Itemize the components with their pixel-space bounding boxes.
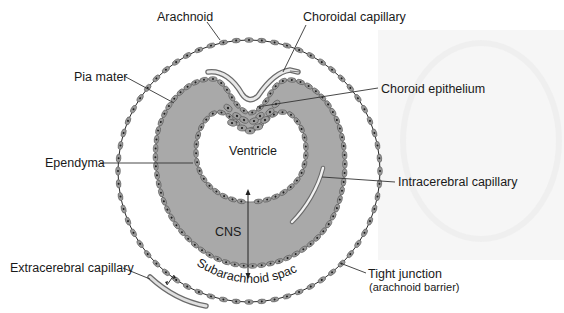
label-choroidal-capillary: Choroidal capillary — [303, 10, 407, 24]
label-intracerebral-capillary: Intracerebral capillary — [398, 175, 518, 189]
meninges-diagram: Arachnoid Choroidal capillary Pia mater … — [0, 0, 564, 313]
label-arachnoid: Arachnoid — [157, 10, 213, 24]
label-ventricle: Ventricle — [229, 144, 277, 158]
label-ependyma: Ependyma — [45, 156, 105, 170]
label-tight-junction-sub: (arachnoid barrier) — [369, 281, 459, 293]
label-tight-junction: Tight junction — [368, 267, 442, 281]
label-pia-mater: Pia mater — [74, 70, 128, 84]
label-choroid-epithelium: Choroid epithelium — [381, 82, 485, 96]
label-extracerebral-capillary: Extracerebral capillary — [10, 261, 134, 275]
cns-tissue — [153, 77, 347, 269]
label-cns: CNS — [215, 225, 241, 239]
